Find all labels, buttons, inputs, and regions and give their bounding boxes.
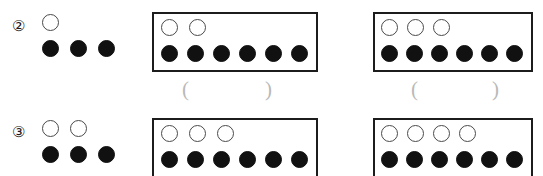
row-marker: ③ [8,123,28,142]
answer-blank[interactable]: ( ) [182,78,272,100]
black-circle [265,45,282,62]
white-circle-row [161,125,234,142]
black-circle [456,45,473,62]
answer-blank-open-paren: ( [182,79,189,100]
black-circle [70,40,87,57]
answer-blank[interactable]: ( ) [411,78,499,100]
black-circle [506,45,523,62]
worksheet-row: ③ [0,106,543,176]
white-circle [217,125,234,142]
circle-group-boxed [373,118,533,176]
white-circle [433,19,450,36]
black-circle [213,151,230,168]
black-circle [161,151,178,168]
worksheet-row: ② [0,0,543,100]
black-circle [161,45,178,62]
white-circle [161,125,178,142]
answer-blank-open-paren: ( [411,79,418,100]
row-marker: ② [8,17,28,36]
black-circle [381,45,398,62]
black-circle [187,151,204,168]
black-circle [187,45,204,62]
white-circle [381,125,398,142]
white-circle [433,125,450,142]
white-circle-row [42,120,87,137]
white-circle [407,19,424,36]
answer-blank-close-paren: ) [492,79,499,100]
black-circle-row [381,45,523,62]
black-circle-row [42,40,115,57]
black-circle-row [161,45,308,62]
answer-blank-close-paren: ) [265,79,272,100]
black-circle [381,151,398,168]
white-circle [42,14,59,31]
black-circle [291,45,308,62]
black-circle [70,146,87,163]
black-circle [265,151,282,168]
black-circle [239,151,256,168]
circle-group-boxed [152,118,318,176]
white-circle [189,19,206,36]
counting-worksheet: ② [0,0,543,176]
black-circle [98,40,115,57]
black-circle [481,45,498,62]
white-circle [42,120,59,137]
circle-group-open [42,14,134,70]
black-circle [213,45,230,62]
white-circle-row [42,14,59,31]
black-circle [456,151,473,168]
black-circle [42,146,59,163]
white-circle [70,120,87,137]
circle-group-open [42,120,134,176]
white-circle-row [161,19,206,36]
white-circle [407,125,424,142]
black-circle [431,151,448,168]
black-circle-row [161,151,308,168]
black-circle [481,151,498,168]
black-circle [431,45,448,62]
circle-group-boxed: ( ) [152,12,318,100]
black-circle [406,45,423,62]
black-circle [406,151,423,168]
black-circle [98,146,115,163]
black-circle-row [42,146,115,163]
white-circle [381,19,398,36]
black-circle [42,40,59,57]
black-circle-row [381,151,523,168]
white-circle [189,125,206,142]
white-circle [161,19,178,36]
white-circle-row [381,125,476,142]
circle-group-boxed: ( ) [373,12,533,100]
black-circle [506,151,523,168]
white-circle [459,125,476,142]
black-circle [239,45,256,62]
white-circle-row [381,19,450,36]
black-circle [291,151,308,168]
